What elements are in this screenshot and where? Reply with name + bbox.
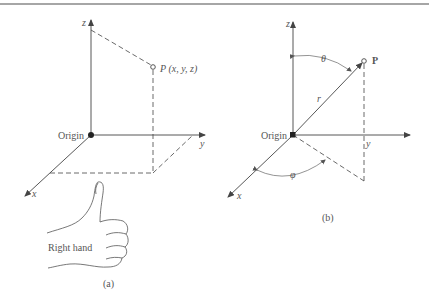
origin-label-b: Origin: [261, 130, 287, 141]
spherical-diagram: z y x Origin P r θ φ (b): [228, 18, 410, 224]
phi-label: φ: [290, 169, 296, 180]
point-label-b: P: [372, 55, 378, 66]
origin-label-a: Origin: [58, 130, 84, 141]
projection-lines-a: [50, 30, 192, 173]
y-label-a: y: [199, 138, 205, 149]
right-hand-icon: [47, 182, 128, 268]
point-p-a: [151, 65, 156, 70]
origin-dot-b: [290, 132, 296, 138]
x-axis-b: [228, 135, 293, 197]
radius-label: r: [317, 93, 321, 104]
coordinate-systems-figure: z y x Origin P (x, y, z) Right hand (a): [0, 0, 429, 300]
projection-lines-b: [293, 64, 364, 181]
caption-b: (b): [322, 212, 334, 224]
point-p-b: [362, 59, 367, 64]
y-label-b: y: [365, 138, 371, 149]
theta-label: θ: [321, 53, 326, 64]
x-label-b: x: [236, 190, 242, 201]
caption-a: (a): [103, 278, 114, 290]
x-axis-a: [25, 135, 91, 196]
cartesian-diagram: z y x Origin P (x, y, z) Right hand (a): [25, 17, 205, 290]
origin-dot-a: [88, 132, 94, 138]
z-label-b: z: [285, 18, 290, 29]
point-label-a: P (x, y, z): [159, 63, 198, 75]
z-label-a: z: [81, 17, 86, 28]
x-label-a: x: [31, 188, 37, 199]
radius-vector-r: [293, 63, 362, 135]
hand-label: Right hand: [48, 242, 92, 253]
